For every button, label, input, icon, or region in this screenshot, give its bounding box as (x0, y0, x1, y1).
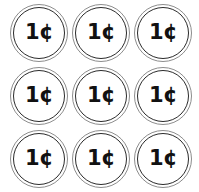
coin-item[interactable]: 1¢ (10, 4, 68, 62)
coin-item[interactable]: 1¢ (72, 4, 130, 62)
coin-denomination-label: 1¢ (72, 4, 130, 62)
coin-denomination-label: 1¢ (134, 67, 192, 125)
coin-item[interactable]: 1¢ (134, 4, 192, 62)
coin-denomination-label: 1¢ (134, 130, 192, 188)
coin-grid: 1¢ 1¢ 1¢ 1¢ 1¢ 1¢ (10, 4, 192, 189)
coin-item[interactable]: 1¢ (134, 130, 192, 188)
coin-item[interactable]: 1¢ (72, 67, 130, 125)
coin-item[interactable]: 1¢ (72, 130, 130, 188)
coin-denomination-label: 1¢ (10, 67, 68, 125)
coin-denomination-label: 1¢ (72, 130, 130, 188)
coin-item[interactable]: 1¢ (10, 67, 68, 125)
coin-denomination-label: 1¢ (10, 4, 68, 62)
coin-denomination-label: 1¢ (10, 130, 68, 188)
coin-denomination-label: 1¢ (134, 4, 192, 62)
coin-item[interactable]: 1¢ (134, 67, 192, 125)
coin-grid-canvas: 1¢ 1¢ 1¢ 1¢ 1¢ 1¢ (0, 0, 199, 192)
coin-item[interactable]: 1¢ (10, 130, 68, 188)
coin-denomination-label: 1¢ (72, 67, 130, 125)
